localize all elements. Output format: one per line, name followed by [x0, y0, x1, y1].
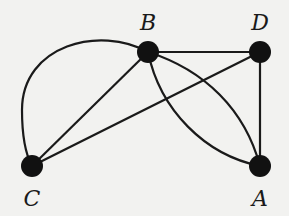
- node-d: [249, 41, 271, 63]
- graph-diagram: B D C A: [0, 0, 289, 216]
- edge-b-a-arc-upper: [148, 52, 260, 166]
- node-label-d: D: [250, 10, 269, 35]
- node-label-b: B: [139, 10, 156, 35]
- edge-b-a-arc-lower: [148, 52, 260, 166]
- node-label-a: A: [250, 186, 268, 211]
- node-label-c: C: [24, 186, 41, 211]
- edge-b-c-straight: [32, 52, 148, 166]
- edge-d-c: [32, 52, 260, 166]
- node-a: [249, 155, 271, 177]
- edge-b-c-arc: [22, 40, 148, 166]
- node-c: [21, 155, 43, 177]
- node-b: [137, 41, 159, 63]
